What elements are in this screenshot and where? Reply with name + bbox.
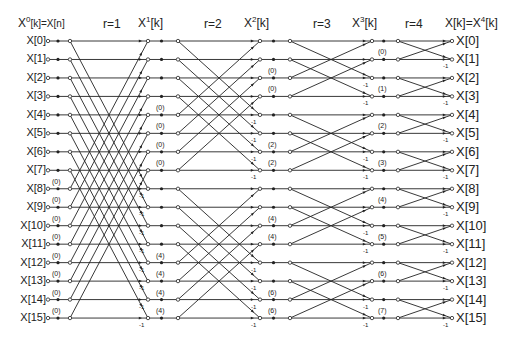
output-label: X[12] <box>456 255 486 270</box>
twiddle-label: (6) <box>268 289 277 296</box>
twiddle-label: (0) <box>268 67 277 74</box>
input-label: X[10] <box>20 219 46 231</box>
twiddle-label: (3) <box>378 159 387 166</box>
x2-title: X2[k] <box>244 15 269 30</box>
twiddle-label: (4) <box>156 289 165 296</box>
input-label: X[9] <box>26 200 46 212</box>
input-label: X[3] <box>26 89 46 101</box>
output-label: X[6] <box>456 144 479 159</box>
fft-butterfly-diagram: -1-1-1-1-1-1-1-1-1-1-1-1-1-1-1-1-1-1-1-1… <box>0 0 516 341</box>
svg-text:-1: -1 <box>443 322 449 328</box>
twiddle-label: (0) <box>268 85 277 92</box>
twiddle-label: (0) <box>52 289 61 296</box>
svg-text:-1: -1 <box>363 156 369 162</box>
twiddle-label: (0) <box>156 159 165 166</box>
svg-text:-1: -1 <box>443 211 449 217</box>
output-label: X[1] <box>456 51 479 66</box>
twiddle-label: (0) <box>52 233 61 240</box>
input-label: X[4] <box>26 108 46 120</box>
stage-label-r4: r=4 <box>405 17 423 31</box>
svg-text:-1: -1 <box>251 285 257 291</box>
twiddle-label: (2) <box>378 122 387 129</box>
output-label: X[14] <box>456 292 486 307</box>
output-label: X[13] <box>456 273 486 288</box>
input-label: X[1] <box>26 52 46 64</box>
output-title: X[k]=X4[k] <box>445 15 498 30</box>
svg-text:-1: -1 <box>251 322 257 328</box>
svg-text:-1: -1 <box>443 174 449 180</box>
svg-text:-1: -1 <box>139 322 145 328</box>
stage-label-r2: r=2 <box>204 17 222 31</box>
butterfly-nodes <box>46 39 453 319</box>
twiddle-label: (0) <box>52 178 61 185</box>
twiddle-label: (4) <box>156 307 165 314</box>
output-label: X[5] <box>456 125 479 140</box>
twiddle-label: (0) <box>52 270 61 277</box>
svg-text:-1: -1 <box>139 304 145 310</box>
svg-text:-1: -1 <box>363 248 369 254</box>
input-label: X[14] <box>20 293 46 305</box>
twiddle-label: (0) <box>52 196 61 203</box>
svg-text:-1: -1 <box>251 119 257 125</box>
twiddle-label: (0) <box>52 252 61 259</box>
output-label: X[8] <box>456 181 479 196</box>
output-label: X[15] <box>456 310 486 325</box>
input-label: X[0] <box>26 34 46 46</box>
output-label: X[11] <box>456 236 485 251</box>
butterfly-lines <box>48 41 452 318</box>
twiddle-label: (6) <box>268 307 277 314</box>
input-title: X0[k]=X[n] <box>18 15 65 30</box>
twiddle-label: (4) <box>378 196 387 203</box>
svg-text:-1: -1 <box>251 304 257 310</box>
twiddle-label: (0) <box>156 104 165 111</box>
svg-text:-1: -1 <box>363 100 369 106</box>
twiddle-label: (2) <box>268 141 277 148</box>
svg-text:-1: -1 <box>251 156 257 162</box>
svg-text:-1: -1 <box>363 82 369 88</box>
output-label: X[0] <box>456 33 479 48</box>
svg-text:-1: -1 <box>139 248 145 254</box>
x1-title: X1[k] <box>138 15 163 30</box>
twiddle-label: (7) <box>378 307 387 314</box>
output-label: X[2] <box>456 70 479 85</box>
output-label: X[10] <box>456 218 486 233</box>
output-label: X[3] <box>456 88 479 103</box>
twiddle-label: (2) <box>268 159 277 166</box>
stage-label-r3: r=3 <box>313 17 331 31</box>
input-label: X[5] <box>26 126 46 138</box>
svg-text:-1: -1 <box>363 322 369 328</box>
svg-text:-1: -1 <box>251 137 257 143</box>
twiddle-label: (6) <box>378 270 387 277</box>
twiddle-label: (5) <box>378 233 387 240</box>
input-label: X[13] <box>20 274 46 286</box>
svg-text:-1: -1 <box>139 230 145 236</box>
twiddle-label: (4) <box>268 233 277 240</box>
input-label: X[11] <box>21 237 46 249</box>
input-label: X[2] <box>26 71 46 83</box>
svg-text:-1: -1 <box>139 285 145 291</box>
twiddle-label: (1) <box>378 85 387 92</box>
svg-text:-1: -1 <box>363 304 369 310</box>
twiddle-label: (0) <box>156 122 165 129</box>
input-label: X[15] <box>20 311 46 323</box>
svg-text:-1: -1 <box>139 211 145 217</box>
twiddle-label: (0) <box>52 307 61 314</box>
svg-text:-1: -1 <box>443 248 449 254</box>
output-label: X[7] <box>456 162 479 177</box>
svg-text:-1: -1 <box>443 285 449 291</box>
twiddle-label: (0) <box>378 48 387 55</box>
svg-text:-1: -1 <box>443 63 449 69</box>
svg-text:-1: -1 <box>139 267 145 273</box>
input-label: X[7] <box>26 163 46 175</box>
stage-label-r1: r=1 <box>103 17 121 31</box>
svg-text:-1: -1 <box>443 100 449 106</box>
input-label: X[12] <box>20 256 46 268</box>
svg-text:-1: -1 <box>139 193 145 199</box>
input-label: X[6] <box>26 145 46 157</box>
twiddle-label: (4) <box>268 215 277 222</box>
twiddle-label: (4) <box>156 270 165 277</box>
svg-text:-1: -1 <box>251 174 257 180</box>
twiddle-label: (0) <box>156 141 165 148</box>
svg-text:-1: -1 <box>443 137 449 143</box>
x3-title: X3[k] <box>352 15 377 30</box>
